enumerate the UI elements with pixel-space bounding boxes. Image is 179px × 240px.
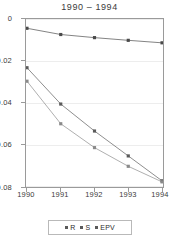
data-point-epv-1993 (127, 39, 130, 42)
y-tick-mark-0 (21, 18, 25, 19)
series-canvas (26, 19, 163, 187)
series-line-r (27, 68, 162, 181)
data-point-r-1992 (93, 129, 96, 132)
data-point-r-1991 (59, 102, 62, 105)
data-point-epv-1990 (26, 27, 29, 30)
plot-area (25, 18, 164, 188)
legend-item-epv: EPV (95, 224, 115, 231)
chart-legend: R S EPV (48, 220, 132, 235)
y-axis-label-0: 0 (8, 14, 12, 23)
y-axis-label-3: -0.06 (0, 140, 12, 149)
y-tick-mark-2 (21, 102, 25, 103)
data-point-s-1992 (93, 146, 96, 149)
legend-marker-icon-r (65, 226, 68, 229)
x-axis-label-2: 1992 (85, 190, 103, 199)
data-point-epv-1991 (59, 33, 62, 36)
data-point-s-1993 (127, 165, 130, 168)
data-point-s-1994 (160, 180, 163, 183)
legend-marker-icon-s (80, 226, 83, 229)
x-axis-label-3: 1993 (119, 190, 137, 199)
y-axis-label-2: -0.04 (0, 98, 12, 107)
chart-title: 1990 – 1994 (0, 2, 179, 12)
y-tick-mark-1 (21, 60, 25, 61)
y-axis-label-4: -0.08 (0, 183, 12, 192)
data-point-s-1991 (59, 122, 62, 125)
legend-label-s: S (85, 224, 90, 231)
data-point-r-1993 (127, 154, 130, 157)
data-point-epv-1992 (93, 36, 96, 39)
legend-label-r: R (70, 224, 75, 231)
x-axis-label-1: 1991 (51, 190, 69, 199)
legend-label-epv: EPV (100, 224, 115, 231)
x-axis-label-4: 1994 (151, 190, 169, 199)
y-axis-label-1: -0.02 (0, 56, 12, 65)
series-line-epv (27, 28, 162, 43)
y-tick-mark-4 (21, 187, 25, 188)
data-point-epv-1994 (160, 41, 163, 44)
x-axis-label-0: 1990 (17, 190, 35, 199)
data-point-r-1990 (26, 66, 29, 69)
legend-item-r: R (65, 224, 75, 231)
chart-figure: 1990 – 1994 0 -0.02 -0.04 -0.06 -0.08 19… (0, 0, 179, 240)
legend-marker-icon-epv (95, 226, 98, 229)
y-tick-mark-3 (21, 144, 25, 145)
legend-item-s: S (80, 224, 90, 231)
data-point-s-1990 (26, 80, 29, 83)
